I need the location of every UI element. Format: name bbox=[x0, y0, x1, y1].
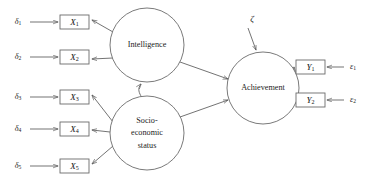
diagram-canvas: Intelligence Socio- economic status Achi… bbox=[0, 0, 373, 188]
residual-label-delta4: δ4 bbox=[15, 124, 22, 134]
path-ses-to-x5 bbox=[92, 146, 113, 164]
path-zeta-to-achievement bbox=[248, 28, 256, 50]
residual-label-delta3: δ3 bbox=[15, 92, 22, 102]
path-ses-to-achievement bbox=[180, 100, 228, 117]
residual-label-delta5: δ5 bbox=[15, 161, 22, 171]
residual-label-delta2: δ2 bbox=[15, 52, 22, 62]
latent-label-achievement: Achievement bbox=[241, 83, 285, 92]
residual-label-epsilon1: ε1 bbox=[350, 62, 356, 72]
latent-label-intelligence: Intelligence bbox=[128, 40, 167, 49]
path-intelligence-to-achievement bbox=[180, 62, 228, 79]
residual-label-delta1: δ1 bbox=[15, 17, 22, 27]
latent-label-ses-line2: economic bbox=[131, 128, 163, 137]
latent-label-ses-line1: Socio- bbox=[136, 116, 158, 125]
latent-label-ses-line3: status bbox=[138, 141, 157, 150]
path-ses-to-x3 bbox=[92, 95, 113, 122]
disturbance-label-zeta: ζ bbox=[250, 14, 255, 24]
residual-label-epsilon2: ε2 bbox=[350, 95, 356, 105]
sem-path-diagram: Intelligence Socio- economic status Achi… bbox=[0, 0, 373, 188]
path-ses-to-x4 bbox=[92, 130, 110, 132]
path-intelligence-to-x1 bbox=[92, 20, 113, 32]
path-intelligence-to-x2 bbox=[92, 58, 113, 59]
